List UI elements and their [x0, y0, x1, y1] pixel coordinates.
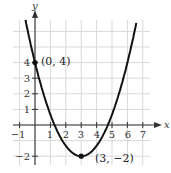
- x-tick-label: 7: [140, 129, 146, 140]
- x-tick-label: 2: [63, 129, 69, 140]
- y-axis-label: y: [31, 0, 38, 11]
- x-tick-label: 3: [78, 129, 84, 140]
- point-label-0-4: (0, 4): [41, 55, 71, 68]
- x-tick-label: 4: [94, 129, 100, 140]
- parabola-graph: x y −1 1 2 3 4 5 6 7 −2 1 2 3 4 (0, 4) (…: [0, 0, 171, 173]
- point-label-3-neg2: (3, −2): [95, 152, 134, 165]
- x-axis-label: x: [164, 119, 170, 130]
- x-axis-arrow-icon: [154, 122, 162, 128]
- point-3-neg2: [79, 154, 84, 159]
- y-tick-label: 2: [24, 88, 30, 99]
- y-tick-label: 1: [24, 104, 30, 115]
- y-tick-label: 3: [24, 73, 30, 84]
- x-tick-label: 5: [109, 129, 115, 140]
- x-tick-label: 1: [47, 129, 53, 140]
- x-tick-label: −1: [11, 129, 26, 140]
- x-tick-labels: −1 1 2 3 4 5 6 7: [11, 129, 147, 140]
- y-tick-label: 4: [24, 57, 30, 68]
- point-0-4: [32, 60, 37, 65]
- axes: [13, 14, 157, 165]
- grid: [13, 20, 150, 165]
- y-axis-arrow-icon: [32, 10, 38, 18]
- x-tick-label: 6: [125, 129, 131, 140]
- y-tick-label: −2: [15, 151, 30, 162]
